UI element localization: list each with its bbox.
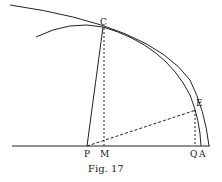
outer-arc — [10, 5, 209, 146]
segment-pc — [87, 27, 103, 146]
label-e: E — [196, 98, 203, 108]
label-m: M — [100, 149, 109, 159]
geometry-diagram: C E P M Q A Fig. 17 — [0, 0, 222, 182]
label-p: P — [84, 149, 90, 159]
figure-caption: Fig. 17 — [88, 163, 124, 174]
segment-pe — [87, 110, 196, 146]
inner-arc — [36, 25, 201, 146]
label-q: Q — [190, 149, 197, 159]
label-c: C — [100, 17, 107, 27]
label-a: A — [198, 149, 206, 159]
figure-17: C E P M Q A Fig. 17 — [0, 0, 222, 182]
